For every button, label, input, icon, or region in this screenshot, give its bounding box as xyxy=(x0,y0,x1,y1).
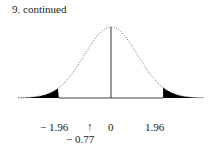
normal-curve-chart xyxy=(0,0,213,148)
center-label: 0 xyxy=(108,121,114,133)
right-tail-region xyxy=(163,88,204,98)
test-statistic-label: − 0.77 xyxy=(66,133,94,145)
left-tail-region xyxy=(18,88,59,98)
right-critical-label: 1.96 xyxy=(145,121,164,133)
left-critical-label: − 1.96 xyxy=(40,121,68,133)
arrow-marker-icon: ↑ xyxy=(87,120,93,132)
